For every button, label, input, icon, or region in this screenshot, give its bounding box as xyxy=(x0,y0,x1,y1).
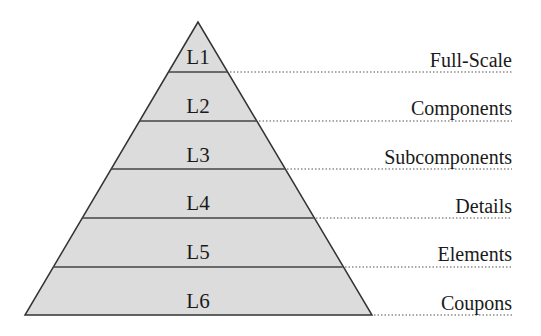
level-code: L1 xyxy=(186,45,209,69)
level-labels: Full-Scale Components Subcomponents Deta… xyxy=(384,49,512,315)
level-label: Subcomponents xyxy=(384,146,512,169)
level-label: Elements xyxy=(438,243,513,265)
pyramid-diagram: L1 L2 L3 L4 L5 L6 Full-Scale Components … xyxy=(0,0,541,336)
level-label: Coupons xyxy=(441,292,512,315)
level-code: L6 xyxy=(186,289,209,313)
level-label: Full-Scale xyxy=(430,49,512,71)
level-label: Details xyxy=(455,195,512,217)
level-code: L5 xyxy=(186,240,209,264)
level-label: Components xyxy=(411,97,512,120)
level-code: L3 xyxy=(186,143,209,167)
level-code: L4 xyxy=(186,191,210,215)
level-code: L2 xyxy=(186,94,209,118)
